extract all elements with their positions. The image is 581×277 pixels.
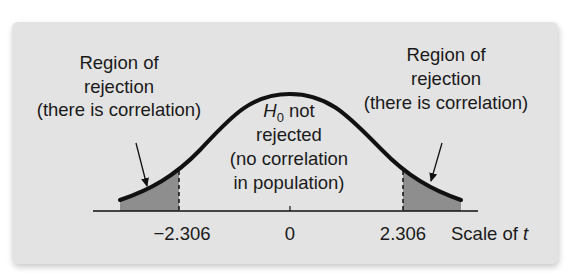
null-hypothesis-label: H0 not rejected (no correlation in popul… [230,100,348,193]
h-subscript: 0 [277,110,284,125]
svg-text:(there is correlation): (there is correlation) [364,92,529,113]
svg-text:rejected: rejected [256,124,322,145]
svg-text:(there is correlation): (there is correlation) [37,99,202,120]
tick-label-neg: −2.306 [153,223,210,244]
x-axis-label: Scale of t [451,223,529,244]
right-annotation-arrow [431,143,442,181]
left-annotation-arrow [136,143,147,186]
svg-text:Region of: Region of [406,44,486,65]
svg-text:Region of: Region of [79,52,159,73]
svg-text:rejection: rejection [84,76,154,97]
svg-text:rejection: rejection [411,68,481,89]
svg-text:H0 not: H0 not [263,100,314,125]
t-distribution-diagram: Region of rejection (there is correlatio… [0,0,581,277]
tick-label-zero: 0 [285,223,295,244]
left-rejection-label: Region of rejection (there is correlatio… [37,52,202,120]
svg-text:in population): in population) [233,172,344,193]
svg-text:(no correlation: (no correlation [230,148,348,169]
h-symbol: H [263,100,277,121]
tick-label-pos: 2.306 [380,223,426,244]
right-rejection-label: Region of rejection (there is correlatio… [364,44,529,113]
